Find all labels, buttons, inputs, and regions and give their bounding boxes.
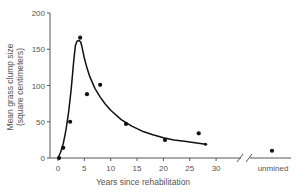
y-tick-label: 150 <box>32 45 46 54</box>
y-axis-title-line2: (square centimeters) <box>15 48 25 126</box>
y-tick-label: 100 <box>32 82 46 91</box>
data-point <box>85 92 89 96</box>
x-axis: 051015202530 <box>50 154 291 173</box>
x-tick-label: 10 <box>106 164 115 173</box>
x-tick-label-unmined: unmined <box>258 164 289 173</box>
data-point <box>78 36 82 40</box>
data-point <box>124 122 128 126</box>
x-tick-label: 15 <box>133 164 142 173</box>
data-point <box>57 156 61 160</box>
fitted-curve <box>58 41 207 159</box>
grass-clump-chart: 050100150200 051015202530 Mean grass clu… <box>0 0 305 193</box>
y-tick-label: 50 <box>36 118 45 127</box>
y-tick-label: 200 <box>32 9 46 18</box>
x-tick-label: 5 <box>82 164 87 173</box>
data-point <box>163 138 167 142</box>
data-points <box>57 36 274 161</box>
y-axis: 050100150200 <box>32 9 50 163</box>
x-tick-label: 25 <box>185 164 194 173</box>
x-tick-label: 30 <box>212 164 221 173</box>
x-tick-label: 0 <box>56 164 61 173</box>
data-point <box>61 146 65 150</box>
data-point <box>98 83 102 87</box>
data-point <box>197 131 201 135</box>
x-axis-title: Years since rehabilitation <box>96 177 190 187</box>
x-tick-label: 20 <box>159 164 168 173</box>
data-point <box>68 120 72 124</box>
y-tick-label: 0 <box>41 154 46 163</box>
y-axis-title-line1: Mean grass clump size <box>5 43 15 130</box>
data-point <box>270 149 274 153</box>
